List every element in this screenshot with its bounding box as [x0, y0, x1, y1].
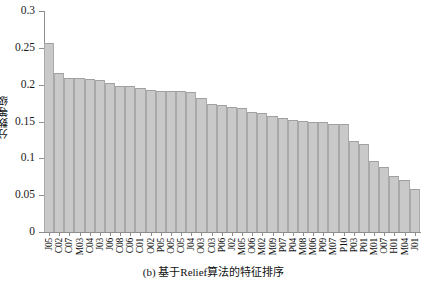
x-tick-label-cell: C02	[54, 237, 64, 265]
x-tick-label: J05	[44, 238, 54, 266]
x-tick-label-cell: M01	[369, 237, 379, 265]
x-tick-mark	[166, 232, 176, 236]
x-tick-mark	[186, 232, 196, 236]
x-tick-label: C08	[115, 238, 125, 266]
x-tick-label: J04	[186, 238, 196, 266]
x-tick-mark	[105, 232, 115, 236]
figure-relief-feature-ranking: 分数等级 00.050.10.150.20.250.3 J05C02C07M03…	[0, 0, 427, 281]
bar	[399, 180, 409, 232]
x-tick-mark	[349, 232, 359, 236]
x-tick-label-cell: J04	[186, 237, 196, 265]
x-tick-mark	[328, 232, 338, 236]
x-tick-mark	[288, 232, 298, 236]
bar	[379, 167, 389, 232]
x-tick-label: J01	[410, 238, 420, 266]
bar	[288, 120, 298, 232]
x-tick-mark	[176, 232, 186, 236]
x-tick-label: C02	[54, 238, 64, 266]
x-tick-label: H01	[389, 238, 399, 266]
x-tick-label: P03	[349, 238, 359, 266]
x-tick-label: J02	[227, 238, 237, 266]
bar	[44, 43, 54, 232]
y-tick-label: 0.2	[21, 79, 35, 91]
x-tick-mark	[389, 232, 399, 236]
x-tick-mark	[298, 232, 308, 236]
bar	[247, 112, 257, 232]
x-tick-mark	[399, 232, 409, 236]
x-tick-label-cell: C07	[64, 237, 74, 265]
x-tick-mark	[95, 232, 105, 236]
x-tick-label-cell: M08	[298, 237, 308, 265]
x-tick-label-cell: P03	[349, 237, 359, 265]
x-tick-label-cell: M04	[399, 237, 409, 265]
x-tick-label: O02	[146, 238, 156, 266]
bar	[217, 105, 227, 232]
x-tick-label: P05	[156, 238, 166, 266]
x-tick-label-cell: O02	[146, 237, 156, 265]
x-tick-mark	[379, 232, 389, 236]
x-tick-label: P04	[288, 238, 298, 266]
x-tick-label: M06	[308, 238, 318, 266]
x-tick-label-cell: M06	[308, 237, 318, 265]
x-tick-mark	[227, 232, 237, 236]
x-tick-label-cell: M03	[74, 237, 84, 265]
x-tick-label-cell: P01	[359, 237, 369, 265]
x-tick-label: J06	[105, 238, 115, 266]
x-tick-mark	[410, 232, 420, 236]
x-tick-mark	[115, 232, 125, 236]
bar	[166, 91, 176, 232]
x-tick-label: C06	[125, 238, 135, 266]
bar	[196, 98, 206, 232]
x-tick-label: M09	[268, 238, 278, 266]
x-tick-label: C03	[207, 238, 217, 266]
x-tick-mark	[308, 232, 318, 236]
y-tick-label: 0.05	[15, 189, 35, 201]
x-tick-mark	[85, 232, 95, 236]
x-tick-mark	[369, 232, 379, 236]
bar	[278, 118, 288, 232]
x-tick-label-cell: J03	[95, 237, 105, 265]
x-tick-label-cell: C08	[115, 237, 125, 265]
x-tick-label: C07	[64, 238, 74, 266]
y-tick-label: 0.3	[21, 5, 35, 17]
bar	[257, 113, 267, 232]
x-tick-label: P06	[217, 238, 227, 266]
bar	[146, 90, 156, 232]
x-tick-label: M08	[298, 238, 308, 266]
x-tick-label-cell: J06	[105, 237, 115, 265]
x-tick-label: O03	[196, 238, 206, 266]
bar	[115, 86, 125, 232]
x-tick-label: P09	[318, 238, 328, 266]
x-tick-label-cell: C03	[207, 237, 217, 265]
x-tick-label-cell: M07	[328, 237, 338, 265]
y-tick-label: 0.25	[15, 42, 35, 54]
x-tick-label: M05	[237, 238, 247, 266]
x-tick-label-cell: H01	[389, 237, 399, 265]
x-tick-mark	[146, 232, 156, 236]
y-tick-label: 0	[29, 226, 35, 238]
bar	[207, 104, 217, 232]
bar	[85, 79, 95, 232]
bar	[74, 78, 84, 232]
y-axis-title: 分数等级	[0, 95, 12, 139]
bar	[389, 176, 399, 232]
bar	[176, 91, 186, 232]
bar	[156, 91, 166, 232]
bar	[135, 88, 145, 232]
x-tick-label-cell: O06	[247, 237, 257, 265]
x-tick-mark	[237, 232, 247, 236]
x-tick-label-cell: J02	[227, 237, 237, 265]
x-axis-tick-labels: J05C02C07M03C04J03J06C08C06C01O02P05O05C…	[44, 237, 420, 265]
x-tick-label-cell: P04	[288, 237, 298, 265]
x-tick-mark	[125, 232, 135, 236]
bar	[339, 124, 349, 232]
x-tick-mark	[44, 232, 54, 236]
x-tick-mark	[339, 232, 349, 236]
bar	[227, 107, 237, 232]
x-tick-label-cell: M05	[237, 237, 247, 265]
figure-caption: (b) 基于Relief算法的特征排序	[0, 265, 427, 279]
bar	[298, 121, 308, 232]
x-tick-label-cell: M02	[257, 237, 267, 265]
bar	[267, 116, 277, 232]
x-tick-label-cell: O03	[196, 237, 206, 265]
